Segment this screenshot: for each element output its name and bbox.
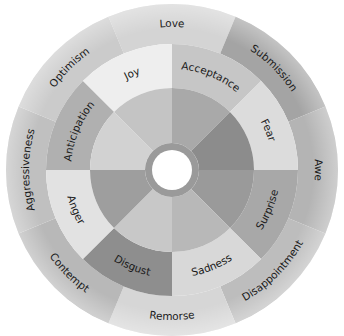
dyad-label-awe: Awe: [313, 159, 325, 182]
dyad-label-remorse: Remorse: [149, 308, 196, 322]
hub-center: [152, 150, 192, 190]
center-hub: [145, 143, 199, 197]
emotion-wheel: LoveSubmissionAweDisappointmentRemorseCo…: [0, 0, 344, 336]
dyad-label-love: Love: [159, 17, 185, 30]
